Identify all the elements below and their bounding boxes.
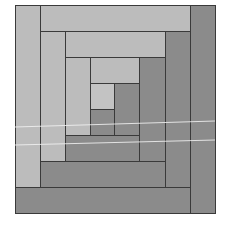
scan-line-0: [15, 121, 215, 127]
scan-line-1: [15, 140, 215, 145]
scan-line-overlay: [0, 0, 233, 227]
